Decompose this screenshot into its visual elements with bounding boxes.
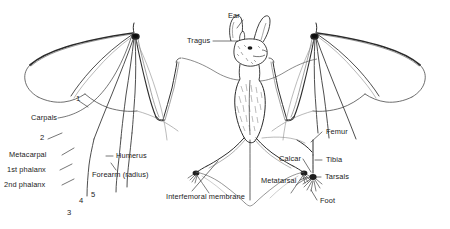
leader-lines-group bbox=[48, 20, 322, 200]
label-second-phalanx: 2nd phalanx bbox=[4, 180, 45, 189]
label-tarsals: Tarsals bbox=[325, 172, 349, 181]
label-humerus: Humerus bbox=[116, 151, 147, 160]
label-interfemoral-membrane: Interfemoral membrane bbox=[166, 192, 245, 201]
right-wing-group bbox=[269, 23, 425, 140]
label-metacarpal: Metacarpal bbox=[9, 150, 47, 159]
label-ear: Ear bbox=[228, 11, 240, 20]
label-first-phalanx: 1st phalanx bbox=[7, 165, 46, 174]
digit-number-3: 3 bbox=[67, 208, 71, 217]
digit-number-2: 2 bbox=[40, 133, 44, 142]
label-calcar: Calcar bbox=[279, 154, 301, 163]
label-femur: Femur bbox=[326, 127, 348, 136]
label-tragus: Tragus bbox=[187, 36, 210, 45]
digit-number-5: 5 bbox=[91, 190, 95, 199]
digit-number-4: 4 bbox=[79, 196, 83, 205]
label-metatarsal: Metatarsal bbox=[261, 176, 297, 185]
label-tibia: Tibia bbox=[326, 155, 342, 164]
bat-anatomy-diagram: Ear Tragus Carpals Metacarpal 1st phalan… bbox=[0, 0, 450, 229]
digit-number-1: 1 bbox=[76, 94, 80, 103]
label-carpals: Carpals bbox=[31, 113, 57, 122]
label-foot: Foot bbox=[320, 196, 335, 205]
label-forearm-radius: Forearm (radius) bbox=[92, 170, 149, 179]
